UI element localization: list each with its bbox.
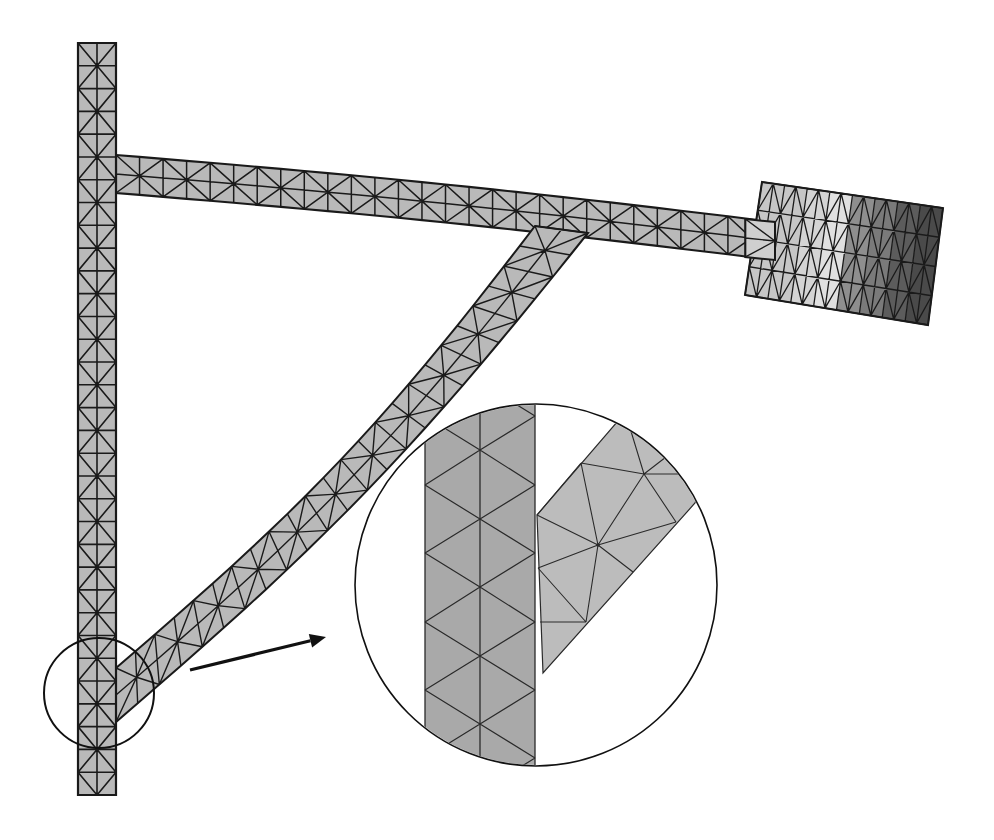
fem-mesh-diagram: Magnified view of strut-to-column connec… (0, 0, 994, 840)
mesh-drawing (0, 0, 994, 840)
vertical-column-mesh (78, 43, 116, 795)
magnified-detail-inset (425, 382, 732, 792)
arm-overlay-on-block (745, 219, 775, 260)
horizontal-arm-mesh (116, 155, 775, 260)
